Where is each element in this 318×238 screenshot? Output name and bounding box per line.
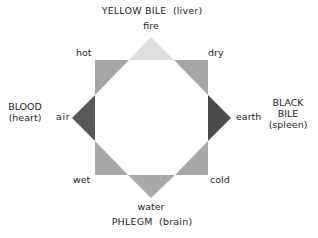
black-bile-organ: (spleen) xyxy=(269,119,308,130)
water-triangle xyxy=(128,175,175,198)
fire-label: fire xyxy=(143,20,159,31)
hot-label: hot xyxy=(76,47,92,58)
fire-triangle xyxy=(129,37,174,60)
yellow-bile-name: YELLOW BILE xyxy=(102,5,167,16)
black-bile-name-line2: BILE xyxy=(269,108,308,119)
phlegm-organ: (brain) xyxy=(159,216,192,227)
water-label: water xyxy=(137,201,164,212)
dry-label: dry xyxy=(208,47,224,58)
yellow-bile-organ: (liver) xyxy=(173,5,202,16)
wet-label: wet xyxy=(73,174,90,185)
air-label: air xyxy=(56,111,70,122)
dry-corner-triangle xyxy=(174,60,208,95)
blood-label: BLOOD (heart) xyxy=(8,101,42,123)
black-bile-name-line1: BLACK xyxy=(269,97,308,108)
wet-corner-triangle xyxy=(95,141,128,175)
cold-label: cold xyxy=(210,174,230,185)
blood-organ: (heart) xyxy=(8,112,42,123)
humors-diagram: YELLOW BILE (liver) fire hot dry wet col… xyxy=(0,0,318,238)
blood-name: BLOOD xyxy=(8,101,42,112)
black-bile-label: BLACK BILE (spleen) xyxy=(269,97,308,130)
air-triangle xyxy=(72,95,95,141)
phlegm-name: PHLEGM xyxy=(112,216,153,227)
phlegm-label: PHLEGM (brain) xyxy=(112,216,193,227)
cold-corner-triangle xyxy=(175,141,208,175)
hot-corner-triangle xyxy=(95,60,129,95)
earth-triangle xyxy=(208,95,231,141)
yellow-bile-label: YELLOW BILE (liver) xyxy=(102,5,203,16)
earth-label: earth xyxy=(236,111,261,122)
